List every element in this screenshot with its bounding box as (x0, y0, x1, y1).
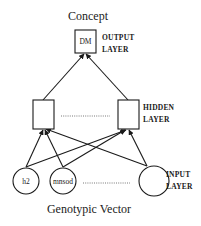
edge-in2-hleft (45, 130, 63, 167)
hidden-layer-label-1: HIDDEN (143, 103, 175, 112)
hidden-layer: HIDDEN LAYER (33, 100, 175, 129)
output-layer-label-1: OUTPUT (102, 33, 134, 42)
output-node-label: DM (79, 37, 91, 46)
hidden-node-right (118, 100, 139, 129)
genotypic-vector-title: Genotypic Vector (47, 202, 131, 216)
edges-input-to-hidden (26, 129, 147, 167)
input-node-n (139, 166, 169, 196)
input-node-h2-label: h2 (22, 177, 30, 186)
edge-hleft-out (43, 54, 84, 100)
input-layer-label-1: INPUT (166, 170, 190, 179)
concept-title: Concept (68, 9, 109, 23)
edge-hright-out (86, 54, 128, 100)
edges-hidden-to-output (43, 54, 128, 100)
edge-in2-hright (63, 130, 125, 167)
input-layer-label-2: LAYER (166, 182, 193, 191)
hidden-layer-label-2: LAYER (143, 115, 170, 124)
input-node-mnsod-label: mnsod (53, 177, 73, 186)
output-layer: DM OUTPUT LAYER (75, 30, 134, 54)
neural-network-diagram: Concept Genotypic Vector DM OUTPUT LAYER… (0, 0, 201, 226)
input-layer: h2 mnsod INPUT LAYER (13, 166, 193, 196)
hidden-node-left (33, 100, 54, 129)
output-layer-label-2: LAYER (102, 45, 129, 54)
